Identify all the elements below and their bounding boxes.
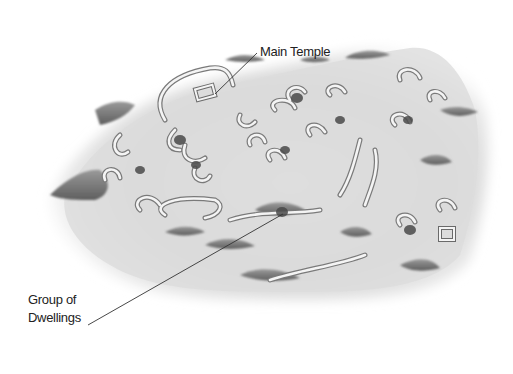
label-group-of-dwellings: Group of Dwellings <box>28 291 81 327</box>
site-illustration: Main Temple Group of Dwellings <box>0 0 513 374</box>
label-main-temple: Main Temple <box>260 43 330 61</box>
label-line-2: Dwellings <box>28 309 81 327</box>
label-line-1: Group of <box>28 291 81 309</box>
